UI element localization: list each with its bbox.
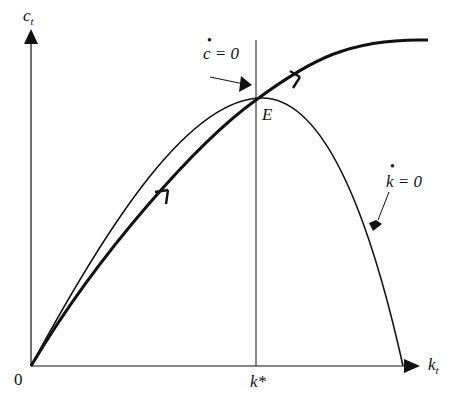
k-dot-zero-label: •k = 0 <box>386 172 422 192</box>
c-dot-zero-label: •c = 0 <box>203 44 239 64</box>
y-axis-label: ct <box>23 6 34 27</box>
x-axis-label: kt <box>428 355 439 376</box>
steady-state-label: E <box>262 105 272 125</box>
origin-label: 0 <box>14 370 23 390</box>
saddle-path <box>31 40 428 366</box>
saddle-arrow-lower-icon <box>155 190 168 204</box>
saddle-arrow-upper-icon <box>290 71 300 88</box>
y-axis-arrow-icon <box>24 29 38 44</box>
k-dot-pointer-arrow-icon <box>369 220 382 231</box>
k-dot-zero-locus <box>31 98 403 366</box>
phase-diagram: ct kt 0 k* E •c = 0 •k = 0 <box>0 0 449 404</box>
k-star-label: k* <box>250 372 266 392</box>
c-dot-pointer-arrow-icon <box>239 76 252 92</box>
k-dot-pointer <box>378 192 389 220</box>
c-dot-pointer <box>210 77 244 84</box>
x-axis-arrow-icon <box>404 359 420 373</box>
